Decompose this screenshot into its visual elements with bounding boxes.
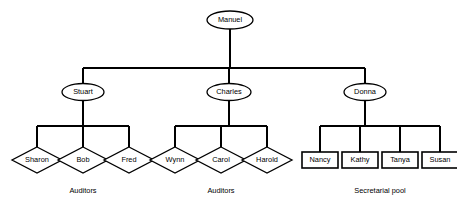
node-label-stuart: Stuart [73, 87, 93, 96]
group-caption-auditors-middle: Auditors [207, 186, 234, 195]
node-label-susan: Susan [430, 155, 451, 164]
node-label-manuel: Manuel [218, 15, 243, 24]
group-captions-group: AuditorsAuditorsSecretarial pool [69, 186, 406, 195]
group-caption-secretarial-pool: Secretarial pool [354, 186, 406, 195]
node-label-harold: Harold [256, 155, 278, 164]
nodes-group: ManuelStuartCharlesDonnaSharonBobFredWyn… [12, 11, 457, 173]
org-chart-svg: ManuelStuartCharlesDonnaSharonBobFredWyn… [0, 0, 457, 206]
node-label-sharon: Sharon [25, 155, 49, 164]
node-label-wynn: Wynn [166, 155, 185, 164]
node-label-nancy: Nancy [310, 155, 331, 164]
node-label-bob: Bob [76, 155, 89, 164]
node-label-carol: Carol [212, 155, 230, 164]
group-caption-auditors-left: Auditors [69, 186, 96, 195]
node-label-fred: Fred [121, 155, 136, 164]
org-chart-canvas: ManuelStuartCharlesDonnaSharonBobFredWyn… [0, 0, 457, 206]
node-label-kathy: Kathy [351, 155, 370, 164]
node-label-tanya: Tanya [390, 155, 411, 164]
node-label-donna: Donna [354, 87, 377, 96]
node-label-charles: Charles [216, 87, 242, 96]
